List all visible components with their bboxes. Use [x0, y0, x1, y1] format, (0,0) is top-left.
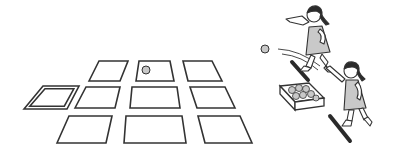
tile-row3-right: [198, 116, 252, 143]
ball-on-tile: [142, 66, 150, 74]
tile-row2-start-inner: [30, 89, 74, 106]
balls-group: [142, 45, 269, 74]
scene-svg: [0, 0, 393, 160]
girl-waiting: [326, 62, 372, 126]
tile-row1-right: [183, 61, 222, 81]
tile-grid: [24, 61, 252, 143]
tile-row1-left: [89, 61, 128, 81]
tile-row3-left: [57, 116, 112, 143]
tile-row3-center: [124, 116, 186, 143]
ball-box: [280, 83, 324, 110]
tile-row2-center: [130, 87, 180, 108]
tile-row2-left: [75, 87, 120, 108]
tile-row2-right: [190, 87, 235, 108]
balls-in-box: [289, 85, 320, 102]
illustration-scene: [0, 0, 393, 160]
ball-in-flight: [261, 45, 269, 53]
